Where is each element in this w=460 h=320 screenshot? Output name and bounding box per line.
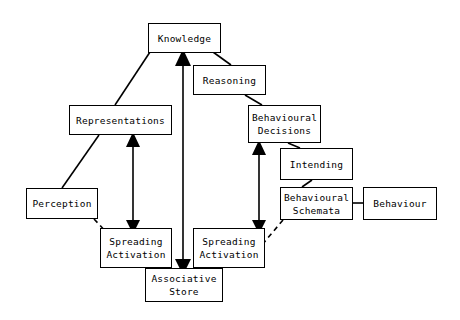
node-knowledge[interactable]: Knowledge xyxy=(148,23,221,53)
node-intending[interactable]: Intending xyxy=(280,148,353,180)
node-reasoning[interactable]: Reasoning xyxy=(193,65,266,95)
node-perception[interactable]: Perception xyxy=(26,188,98,219)
node-representations[interactable]: Representations xyxy=(69,105,172,135)
edge-layer xyxy=(0,0,460,320)
edge-representations-perception xyxy=(62,135,99,188)
node-behaviour[interactable]: Behaviour xyxy=(363,187,437,220)
node-behavioural-schemata[interactable]: Behavioural Schemata xyxy=(280,187,353,220)
node-behavioural-decisions[interactable]: Behavioural Decisions xyxy=(248,105,321,143)
diagram-canvas: Knowledge Reasoning Representations Beha… xyxy=(0,0,460,320)
edge-representations-knowledge xyxy=(115,52,150,105)
edge-intending-behavioural-schemata xyxy=(302,180,312,187)
node-spreading-activation-left[interactable]: Spreading Activation xyxy=(100,228,172,268)
node-spreading-activation-right[interactable]: Spreading Activation xyxy=(193,228,265,268)
node-associative-store[interactable]: Associative Store xyxy=(145,268,223,302)
edge-knowledge-reasoning xyxy=(213,52,231,65)
edge-reasoning-behavioural-decisions xyxy=(245,95,262,105)
